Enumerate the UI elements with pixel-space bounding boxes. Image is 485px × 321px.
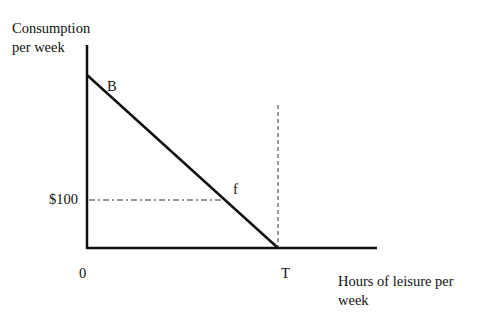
x-axis-label-line2: week [338, 291, 369, 310]
point-b-label: B [107, 77, 117, 96]
budget-line [87, 75, 278, 248]
origin-label: 0 [79, 264, 86, 283]
point-t-label: T [281, 264, 290, 283]
y-axis-label-line2: per week [12, 38, 65, 57]
y-tick-100-label: $100 [49, 190, 78, 209]
point-f-label: f [233, 180, 238, 199]
y-axis-label-line1: Consumption [12, 19, 90, 38]
x-axis-label-line1: Hours of leisure per [338, 272, 454, 291]
